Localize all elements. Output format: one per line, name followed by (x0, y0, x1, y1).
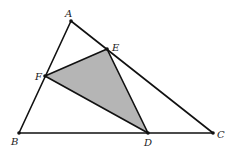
triangle-diagram: A B C D E F (0, 0, 231, 151)
point-f (43, 74, 47, 78)
shaded-triangle-def (45, 49, 148, 133)
label-a: A (64, 8, 72, 19)
point-a (69, 19, 73, 23)
label-b: B (10, 136, 18, 147)
label-c: C (217, 129, 225, 140)
label-f: F (34, 71, 43, 82)
label-d: D (143, 137, 152, 148)
point-b (17, 131, 21, 135)
label-e: E (111, 42, 120, 53)
point-c (211, 131, 215, 135)
point-e (105, 47, 109, 51)
point-d (146, 131, 150, 135)
